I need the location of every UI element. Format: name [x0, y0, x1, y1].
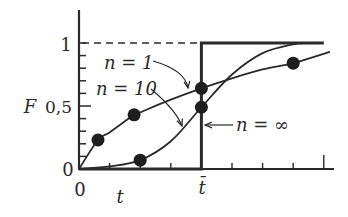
arrow-n1: [153, 61, 188, 88]
y-axis-label: F: [23, 96, 38, 117]
data-point-marker: [128, 108, 141, 121]
data-point-marker: [287, 57, 300, 70]
x-tick-label-tbar: t̄: [198, 175, 206, 198]
y-tick-label-0: 0: [62, 159, 73, 180]
data-markers: [91, 57, 299, 167]
data-point-marker: [134, 154, 147, 167]
data-point-marker: [195, 101, 208, 114]
data-point-marker: [91, 134, 104, 147]
x-tick-label-0: 0: [74, 179, 85, 200]
y-tick-label-0-5: 0,5: [45, 97, 72, 117]
annotation-n-infinity: n = ∞: [236, 114, 289, 135]
data-point-marker: [195, 82, 208, 95]
chart: 1 0,5 F 0 0 t t̄ n = 1 n = 10 n = ∞: [0, 0, 348, 217]
y-ticks: [79, 43, 91, 169]
annotation-n1: n = 1: [104, 52, 154, 73]
y-tick-label-1: 1: [60, 34, 71, 55]
annotation-n10: n = 10: [96, 78, 157, 99]
x-axis-label: t: [116, 186, 124, 207]
